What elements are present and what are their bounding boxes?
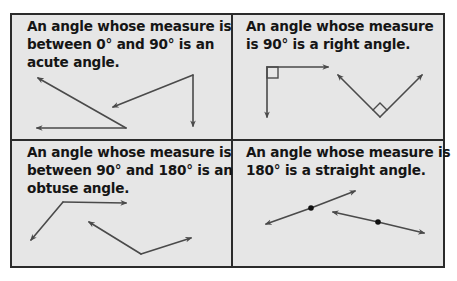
obtuse-angle-1 [31, 202, 126, 240]
acute-angle-1 [37, 78, 126, 128]
ray [380, 75, 422, 117]
vertex-dot [308, 205, 314, 211]
ray [89, 222, 141, 254]
ray [31, 202, 63, 240]
ray [113, 75, 193, 107]
angle-illustrations [0, 0, 457, 281]
right-angle-1 [267, 67, 328, 117]
ray [338, 75, 380, 117]
ray [141, 238, 191, 254]
right-angle-2 [338, 75, 422, 117]
acute-angle-2 [113, 75, 193, 126]
ray [38, 78, 126, 128]
vertex-dot [375, 219, 381, 225]
ray [63, 202, 126, 203]
right-angle-mark [267, 67, 278, 78]
ray [378, 222, 424, 233]
ray [333, 212, 378, 222]
ray [266, 208, 311, 224]
right-angle-mark [373, 103, 387, 110]
ray [311, 191, 355, 208]
obtuse-angle-2 [89, 222, 191, 254]
